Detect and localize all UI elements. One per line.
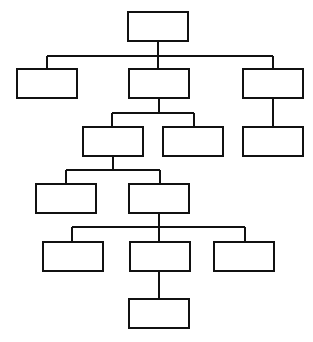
node-box[interactable] — [129, 184, 189, 213]
chart-node-l4-c[interactable] — [214, 242, 274, 271]
chart-node-l2-b[interactable] — [163, 127, 223, 156]
chart-node-l3-a[interactable] — [36, 184, 96, 213]
chart-node-l4-b[interactable] — [130, 242, 190, 271]
node-box[interactable] — [214, 242, 274, 271]
node-box[interactable] — [130, 242, 190, 271]
chart-node-l1-b[interactable] — [129, 69, 189, 98]
chart-node-l2-a[interactable] — [83, 127, 143, 156]
org-chart-diagram — [0, 0, 313, 342]
chart-node-l1-c[interactable] — [243, 69, 303, 98]
node-box[interactable] — [243, 127, 303, 156]
node-box[interactable] — [43, 242, 103, 271]
node-box[interactable] — [163, 127, 223, 156]
chart-node-l2-c[interactable] — [243, 127, 303, 156]
chart-node-root[interactable] — [128, 12, 188, 41]
node-box[interactable] — [129, 299, 189, 328]
node-box[interactable] — [129, 69, 189, 98]
node-box[interactable] — [36, 184, 96, 213]
node-box[interactable] — [128, 12, 188, 41]
node-box[interactable] — [83, 127, 143, 156]
node-box[interactable] — [243, 69, 303, 98]
chart-node-l4-a[interactable] — [43, 242, 103, 271]
chart-node-l1-a[interactable] — [17, 69, 77, 98]
chart-node-l3-b[interactable] — [129, 184, 189, 213]
chart-node-l5-a[interactable] — [129, 299, 189, 328]
node-box[interactable] — [17, 69, 77, 98]
